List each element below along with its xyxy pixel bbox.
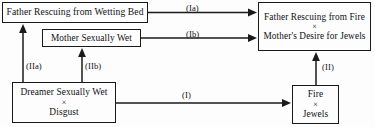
multiply-icon: × — [62, 99, 67, 107]
node-dreamer-line1: Dreamer Sexually Wet — [21, 87, 108, 98]
node-mother-wet-line1: Mother Sexually Wet — [51, 33, 132, 43]
arrow-IIa — [19, 24, 27, 82]
node-dreamer-sexually-wet-disgust: Dreamer Sexually Wet × Disgust — [12, 82, 116, 123]
arrow-label-Ia: (Ia) — [186, 3, 199, 13]
node-father-fire-line1: Father Rescuing from Fire — [264, 12, 365, 22]
node-fire-jewels: Fire × Jewels — [292, 85, 339, 124]
multiply-icon: × — [312, 23, 317, 31]
node-mother-sexually-wet: Mother Sexually Wet — [42, 29, 141, 47]
node-fire-jewels-line2: Jewels — [303, 109, 329, 120]
arrow-label-IIb: (IIb) — [85, 61, 101, 71]
node-fire-jewels-line1: Fire — [308, 89, 324, 100]
arrow-II — [312, 52, 320, 85]
arrow-I — [116, 99, 291, 107]
node-father-bed-line1: Father Rescuing from Wetting Bed — [6, 7, 143, 18]
node-dreamer-line2: Disgust — [49, 107, 78, 118]
arrow-label-Ib: (Ib) — [186, 29, 199, 39]
diagram-canvas: (Ia) (Ib) (I) (IIa) (IIb) (II) Father Re… — [0, 0, 375, 127]
node-father-rescuing-from-wetting-bed: Father Rescuing from Wetting Bed — [2, 2, 148, 23]
node-father-rescuing-from-fire-mothers-desire-for-jewels: Father Rescuing from Fire × Mother's Des… — [258, 2, 371, 51]
arrow-label-I: (I) — [182, 90, 191, 100]
arrow-label-II: (II) — [322, 62, 334, 72]
arrow-label-IIa: (IIa) — [26, 61, 42, 71]
node-father-fire-line2: Mother's Desire for Jewels — [263, 31, 365, 41]
multiply-icon: × — [313, 101, 318, 109]
arrow-Ia — [148, 9, 257, 17]
